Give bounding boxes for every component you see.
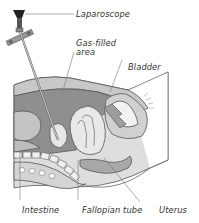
label-fallopian-tube: Fallopian tube <box>82 206 142 215</box>
label-laparoscope: Laparoscope <box>76 10 130 19</box>
label-uterus: Uterus <box>159 206 187 215</box>
label-bladder: Bladder <box>128 63 161 72</box>
label-intestine: Intestine <box>22 206 59 215</box>
anatomy-illustration <box>0 0 199 223</box>
body-section <box>14 72 168 189</box>
label-gas-filled-line2: area <box>76 48 95 57</box>
